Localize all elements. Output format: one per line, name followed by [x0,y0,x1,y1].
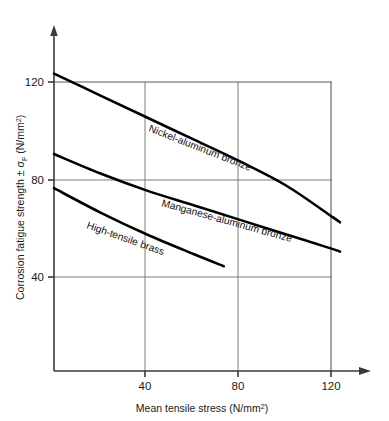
x-axis-title-main: Mean tensile stress (N/mm [136,402,261,414]
x-axis-title-text: Mean tensile stress (N/mm2) [136,402,268,415]
y-tick-labels: 120 80 40 [25,76,44,283]
y-axis-title-text: Corrosion fatigue strength ± σF (N/mm2) [14,115,29,300]
chart-figure: 120 80 40 40 80 120 Nickel-aluminum bron… [0,0,389,421]
y-axis-title-unit: (N/mm [14,122,26,157]
y-axis-arrowhead [50,25,58,36]
y-axis-title: Corrosion fatigue strength ± σF (N/mm2) [14,115,29,300]
x-axis-title-close: ) [265,402,269,414]
y-axis-title-unit-close: ) [14,115,26,119]
x-tick-label-120: 120 [321,380,340,392]
data-series [54,74,340,267]
y-tick-label-40: 40 [31,271,44,283]
y-tick-label-120: 120 [25,76,44,88]
y-tick-label-80: 80 [31,174,44,186]
axes [48,25,371,377]
curve-label-nickel-aluminum-bronze: Nickel-aluminum bronze [147,123,253,173]
x-axis-title: Mean tensile stress (N/mm2) [136,402,268,415]
y-axis-title-main: Corrosion fatigue strength ± σ [14,161,26,300]
curve-labels: Nickel-aluminum bronze Manganese-aluminu… [85,123,293,257]
x-tick-label-40: 40 [139,380,152,392]
x-tick-label-80: 80 [232,380,245,392]
curve-manganese-aluminum-bronze [54,154,340,252]
curve-high-tensile-brass [54,188,224,266]
chart-canvas: 120 80 40 40 80 120 Nickel-aluminum bron… [0,0,389,421]
x-axis-arrowhead [359,367,371,375]
x-tick-labels: 40 80 120 [139,380,341,392]
curve-label-manganese-aluminum-bronze: Manganese-aluminum bronze [160,197,293,244]
